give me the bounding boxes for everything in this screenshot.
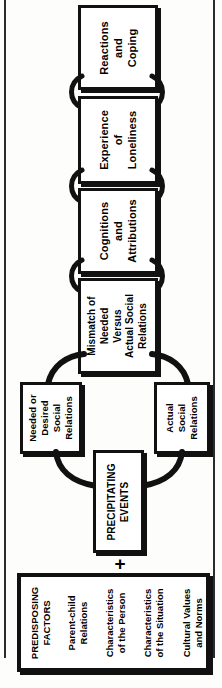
predisposing-column-3: Characteristics of the Situation [135,577,173,668]
box-precipitating-events: PRECIPITATING EVENTS [93,450,144,553]
box-needed-or-desired-social-relations: Needed or Desired Social Relations [20,382,82,454]
plus-operator: + [110,554,130,574]
predisposing-column-4: Cultural Values and Norms [173,577,213,668]
box-reactions-label: Reactions and Coping [97,21,139,74]
page-border-right [213,0,215,658]
page-border-left [4,0,6,658]
box-cognitions-label: Cognitions and Attributions [97,199,139,263]
box-needed-label: Needed or Desired Social Relations [27,394,76,441]
box-mismatch-label: Mismatch of Needed Versus Actual Social … [86,294,150,358]
box-reactions-and-coping: Reactions and Coping [78,5,158,90]
predisposing-column-1: Parent-child Relations [59,577,97,668]
box-actual-label: Actual Social Relations [164,396,200,440]
predisposing-column-2: Characteristics of the Person [97,577,135,668]
loneliness-model-figure: Reactions and Coping Experience of Lonel… [0,0,222,688]
box-cognitions-and-attributions: Cognitions and Attributions [78,188,158,274]
box-mismatch-needed-versus-actual: Mismatch of Needed Versus Actual Social … [78,278,158,374]
connector-curve-precipitating-to-actual [138,450,186,490]
box-precipitating-label: PRECIPITATING EVENTS [106,463,132,540]
predisposing-column-0: PREDISPOSING FACTORS [21,577,61,668]
box-experience-label: Experience of Loneliness [97,110,139,170]
box-experience-of-loneliness: Experience of Loneliness [78,96,158,184]
box-actual-social-relations: Actual Social Relations [154,382,210,454]
box-predisposing-factors: PREDISPOSING FACTORS Parent-child Relati… [17,573,210,672]
